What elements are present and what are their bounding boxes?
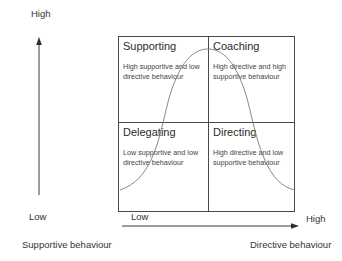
leadership-curve — [120, 49, 295, 190]
y-axis-arrow — [36, 37, 42, 195]
x-axis-arrow — [122, 223, 299, 229]
diagram-overlay — [0, 0, 342, 261]
